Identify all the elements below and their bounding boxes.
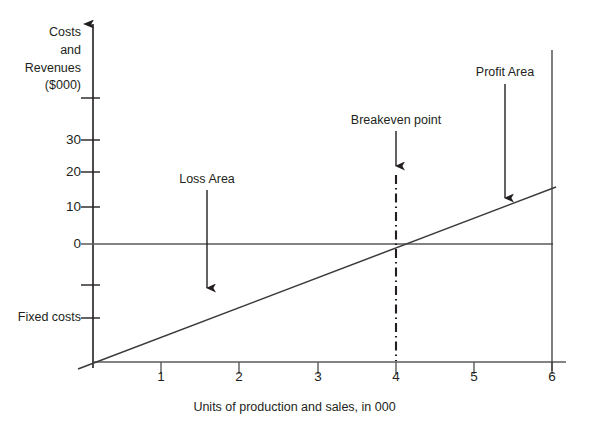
x-tick-label-1: 1 [157, 369, 165, 385]
profit-loss-line [78, 187, 556, 369]
y-tick-label-fixed-costs: Fixed costs [18, 310, 81, 325]
y-axis-title-line-4: ($000) [25, 77, 81, 95]
y-tick-label-0: 0 [73, 236, 81, 252]
x-axis-title: Units of production and sales, in 000 [0, 400, 589, 415]
y-tick-label-30: 30 [66, 132, 81, 148]
profit-area-label: Profit Area [476, 65, 534, 80]
x-tick-label-2: 2 [235, 369, 243, 385]
y-axis-title-line-3: Revenues [25, 60, 81, 78]
breakeven-point-label: Breakeven point [351, 113, 441, 128]
x-tick-label-4: 4 [392, 369, 400, 385]
loss-area-label: Loss Area [179, 172, 235, 187]
y-axis-title-line-2: and [25, 42, 81, 60]
y-tick-label-10: 10 [66, 199, 81, 215]
breakeven-chart: Costs and Revenues ($000) 30 20 10 0 Fix… [0, 0, 589, 435]
y-axis-ticks [81, 98, 100, 318]
x-axis-ticks [161, 362, 552, 374]
x-tick-label-3: 3 [314, 369, 322, 385]
x-tick-label-6: 6 [548, 369, 556, 385]
y-axis-title: Costs and Revenues ($000) [25, 24, 81, 95]
x-tick-label-5: 5 [470, 369, 478, 385]
y-tick-label-20: 20 [66, 164, 81, 180]
y-axis-title-line-1: Costs [25, 24, 81, 42]
